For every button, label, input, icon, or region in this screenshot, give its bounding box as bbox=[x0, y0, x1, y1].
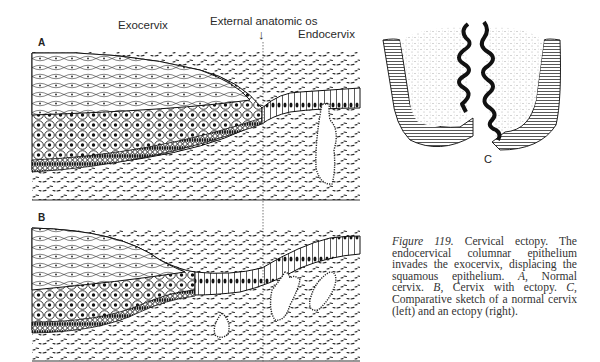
panel-b-drawing bbox=[32, 228, 360, 361]
panel-a-drawing bbox=[32, 52, 360, 200]
figure-caption: Figure 119. Cervical ectopy. The endocer… bbox=[392, 236, 577, 317]
caption-c-text: Comparative sketch of a normal cervix (l… bbox=[392, 293, 577, 318]
panel-c-drawing bbox=[383, 22, 561, 150]
